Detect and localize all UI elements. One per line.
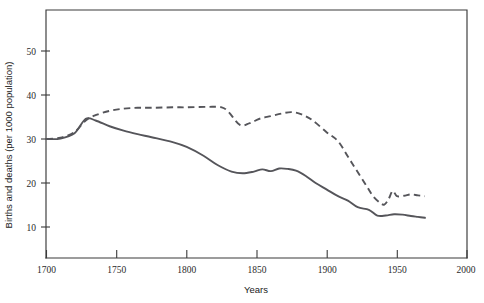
x-tick-label-1750: 1750 [107,265,126,275]
x-tick-label-1800: 1800 [177,265,196,275]
x-tick-label-1850: 1850 [248,265,267,275]
y-axis-tick-labels: 50 40 30 20 10 [27,47,37,233]
y-tick-label-40: 40 [27,91,37,101]
y-tick-label-30: 30 [27,135,37,145]
x-tick-label-1900: 1900 [318,265,337,275]
x-tick-label-2000: 2000 [457,265,476,275]
x-axis-ticks [47,250,468,258]
y-tick-label-20: 20 [27,179,37,189]
x-axis-tick-labels: 1700 1750 1800 1850 1900 1950 2000 [37,265,476,275]
data-series-group [47,107,425,218]
y-tick-label-10: 10 [27,223,37,233]
y-axis-title: Births and deaths (per 1000 population) [3,62,14,229]
x-axis-title: Years [244,284,268,295]
y-tick-label-50: 50 [27,47,37,57]
chart-figure: 50 40 30 20 10 1700 1750 1800 1850 1900 … [0,0,484,303]
series-births-line [47,107,425,205]
plot-frame [46,10,467,258]
series-deaths-line [47,118,425,218]
x-tick-label-1700: 1700 [37,265,56,275]
x-tick-label-1950: 1950 [388,265,407,275]
